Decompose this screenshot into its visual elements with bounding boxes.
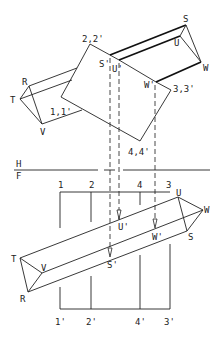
fold-label-h: H [16, 159, 21, 169]
label-top-r: R [22, 77, 28, 87]
label-top-s-prime: S' [99, 59, 110, 69]
label-top-u: U [174, 38, 179, 48]
label-front-s-prime: S' [107, 260, 118, 270]
label-front-w-prime: W' [152, 232, 163, 242]
label-1-1p: 1,1' [50, 107, 72, 117]
piercing-arrow-u [117, 210, 121, 219]
label-front-w: W [204, 205, 210, 215]
label-2-2p: 2,2' [82, 34, 104, 44]
label-front-s: S [188, 232, 193, 242]
top-prism-right [110, 25, 201, 82]
label-front-2: 2 [89, 180, 94, 190]
label-front-1p: 1' [55, 317, 66, 327]
front-plane-edges [60, 192, 170, 309]
label-front-1: 1 [58, 180, 63, 190]
label-front-4p: 4' [135, 317, 146, 327]
label-front-2p: 2' [86, 317, 97, 327]
label-top-t: T [10, 95, 16, 105]
label-front-3p: 3' [164, 317, 175, 327]
label-3-3p: 3,3' [173, 84, 195, 94]
label-top-v: V [40, 127, 46, 137]
piercing-arrow-s [108, 248, 112, 257]
label-front-4: 4 [137, 180, 142, 190]
label-top-u-prime: U' [112, 64, 123, 74]
label-top-w-prime: W' [144, 80, 155, 90]
fold-label-f: F [16, 171, 21, 181]
front-prism [20, 197, 203, 292]
piercing-arrow-w [153, 219, 157, 228]
label-front-3: 3 [166, 180, 171, 190]
label-4-4p: 4,4' [128, 147, 150, 157]
label-top-s: S [183, 14, 188, 24]
top-plane [61, 44, 171, 141]
label-front-r: R [20, 294, 26, 304]
label-front-v: V [41, 263, 47, 273]
drawing-canvas: H F 2,2' 3,3' 4,4' 1,1' R T V S U W S' U… [0, 0, 222, 337]
label-front-t: T [11, 254, 17, 264]
label-front-u: U [176, 188, 181, 198]
label-front-u-prime: U' [118, 222, 129, 232]
label-top-w: W [203, 63, 209, 73]
